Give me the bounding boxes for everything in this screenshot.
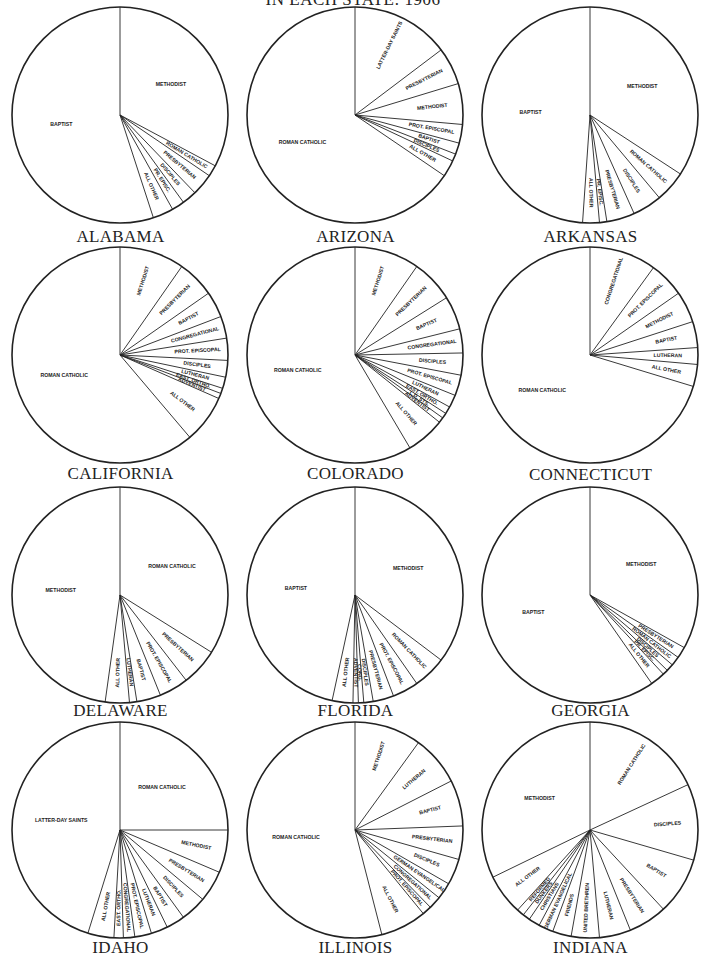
pie-svg: METHODISTPRESBYTERIANBAPTISTCONGREGATION… (238, 243, 473, 463)
pie-svg: METHODISTLUTHERANBAPTISTPRESBYTERIANDISC… (238, 718, 473, 938)
slice-label: ROMAN CATHOLIC (279, 139, 327, 145)
pie-svg: ROMAN CATHOLICPRESBYTERIANPROT. EPISCOPA… (3, 483, 238, 703)
pie-chart-florida: METHODISTROMAN CATHOLICPROT. EPISCOPALPR… (238, 483, 473, 723)
pie-svg: METHODISTROMAN CATHOLICPROT. EPISCOPALPR… (238, 483, 473, 703)
pie-svg: METHODISTPRESBYTERIANBAPTISTCONGREGATION… (3, 243, 238, 463)
pie-svg: ROMAN CATHOLICMETHODISTPRESBYTERIANDISCI… (3, 718, 238, 938)
slice-label: ROMAN CATHOLIC (274, 367, 322, 373)
state-name: INDIANA (473, 938, 706, 958)
pie-chart-indiana: ROMAN CATHOLICDISCIPLESBAPTISTPRESBYTERI… (473, 718, 706, 958)
pie-chart-georgia: METHODISTPRESBYTERIANROMAN CATHOLICDISCI… (473, 483, 706, 723)
pie-chart-grid: METHODISTROMAN CATHOLICPRESBYTERIANDISCI… (0, 0, 706, 961)
slice-label: ALL OTHER (114, 658, 121, 688)
state-name: IDAHO (3, 938, 238, 958)
slice-label: BAPTIST (50, 121, 73, 127)
slice-label: METHODIST (524, 795, 555, 801)
slice-label: ALL OTHER (588, 178, 594, 208)
slice-label: BAPTIST (285, 585, 308, 591)
pie-svg: CONGREGATIONALPROT. EPISCOPALMETHODISTBA… (473, 243, 706, 463)
pie-svg: METHODISTROMAN CATHOLICDISCIPLESPRESBYTE… (473, 3, 706, 223)
pie-svg: LATTER-DAY SAINTSPRESBYTERIANMETHODISTPR… (238, 3, 473, 223)
slice-label: METHODIST (393, 565, 424, 571)
pie-chart-california: METHODISTPRESBYTERIANBAPTISTCONGREGATION… (3, 243, 238, 483)
state-name: COLORADO (238, 464, 473, 484)
slice-label: METHODIST (627, 83, 658, 89)
slice-label: METHODIST (626, 561, 657, 567)
state-name: CALIFORNIA (3, 464, 238, 484)
slice-label: ROMAN CATHOLIC (272, 834, 320, 840)
state-name: ILLINOIS (238, 938, 473, 958)
slice-label: ROMAN CATHOLIC (41, 372, 89, 378)
slice-label: LUTHERAN (653, 352, 682, 358)
pie-svg: ROMAN CATHOLICDISCIPLESBAPTISTPRESBYTERI… (473, 718, 706, 938)
slice-label: BAPTIST (520, 109, 543, 115)
pie-chart-colorado: METHODISTPRESBYTERIANBAPTISTCONGREGATION… (238, 243, 473, 483)
pie-svg: METHODISTROMAN CATHOLICPRESBYTERIANDISCI… (3, 3, 238, 223)
slice-label: LATTER-DAY SAINTS (35, 817, 88, 823)
slice-label: METHODIST (156, 81, 187, 87)
slice-label: ROMAN CATHOLIC (519, 387, 567, 393)
pie-chart-connecticut: CONGREGATIONALPROT. EPISCOPALMETHODISTBA… (473, 243, 706, 483)
pie-chart-arkansas: METHODISTROMAN CATHOLICDISCIPLESPRESBYTE… (473, 3, 706, 243)
pie-chart-alabama: METHODISTROMAN CATHOLICPRESBYTERIANDISCI… (3, 3, 238, 243)
slice-label: BAPTIST (522, 609, 545, 615)
pie-chart-arizona: LATTER-DAY SAINTSPRESBYTERIANMETHODISTPR… (238, 3, 473, 243)
slice-label: ROMAN CATHOLIC (148, 563, 196, 569)
pie-chart-idaho: ROMAN CATHOLICMETHODISTPRESBYTERIANDISCI… (3, 718, 238, 958)
pie-chart-illinois: METHODISTLUTHERANBAPTISTPRESBYTERIANDISC… (238, 718, 473, 958)
pie-chart-delaware: ROMAN CATHOLICPRESBYTERIANPROT. EPISCOPA… (3, 483, 238, 723)
state-name: CONNECTICUT (473, 465, 706, 485)
slice-label: METHODIST (45, 587, 76, 593)
pie-svg: METHODISTPRESBYTERIANROMAN CATHOLICDISCI… (473, 483, 706, 703)
slice-label: ROMAN CATHOLIC (138, 784, 186, 790)
